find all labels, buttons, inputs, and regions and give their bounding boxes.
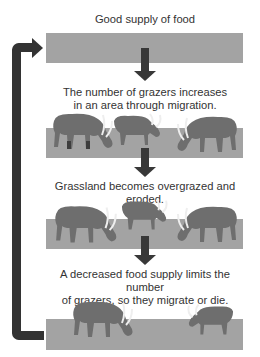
step4-label-line1: A decreased food supply limits the numbe…	[40, 268, 250, 294]
loop-arrow-bottom-segment	[12, 331, 44, 340]
step2-label-line1: The number of grazers increases	[40, 86, 250, 99]
step1-label: Good supply of food	[40, 13, 250, 26]
grazer-icon	[50, 111, 118, 155]
down-arrow-2-icon	[134, 148, 156, 178]
grazer-icon	[172, 114, 240, 158]
grazer-icon	[120, 196, 170, 236]
grazer-icon	[185, 303, 235, 339]
loop-arrow-vertical	[12, 43, 21, 340]
down-arrow-3-icon	[134, 236, 156, 266]
loop-arrow-top-segment	[12, 43, 34, 52]
grazer-icon	[112, 113, 164, 149]
grazer-icon	[172, 204, 240, 248]
grazer-icon	[52, 203, 122, 249]
loop-arrowhead-icon	[32, 38, 43, 58]
step2-label: The number of grazers increases in an ar…	[40, 86, 250, 112]
down-arrow-1-icon	[134, 48, 156, 82]
grazer-icon	[70, 299, 138, 343]
